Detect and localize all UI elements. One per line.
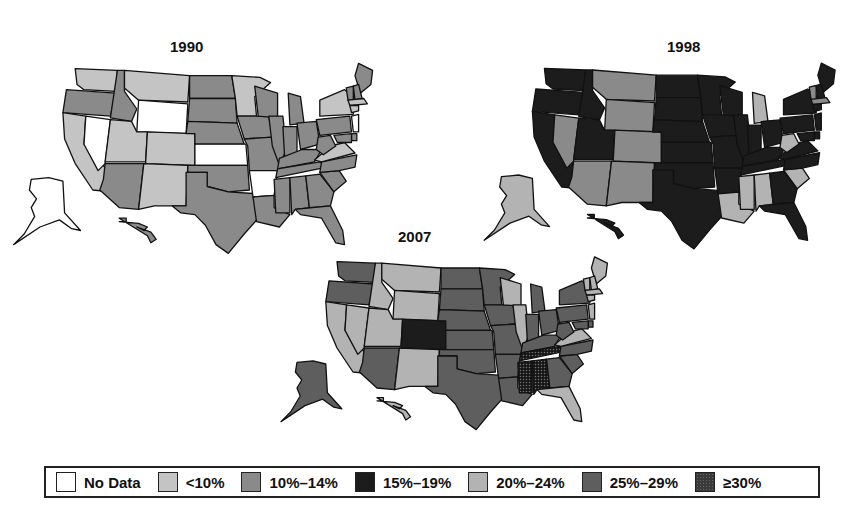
state-ar [715, 168, 743, 194]
state-ne [186, 121, 244, 144]
state-hi [119, 218, 156, 243]
state-ne [438, 310, 491, 331]
legend-swatch [56, 472, 76, 492]
state-wi [500, 278, 521, 307]
state-wi [255, 86, 278, 118]
state-wa [75, 69, 117, 92]
map-1990: 1990 [10, 40, 390, 240]
state-ms [274, 178, 290, 213]
state-az [100, 164, 144, 210]
state-nj [588, 303, 594, 319]
state-co [613, 130, 661, 163]
cropped-caption [160, 0, 720, 5]
legend-label: 25%–29% [610, 474, 678, 491]
legend-item-25-29: 25%–29% [582, 472, 678, 492]
state-vt [346, 86, 353, 100]
legend-label: 20%–24% [496, 474, 564, 491]
state-nm [139, 164, 188, 210]
state-mt [593, 70, 657, 101]
state-ct [813, 104, 822, 111]
state-ak [281, 361, 342, 422]
state-md [572, 321, 588, 329]
state-sd [655, 98, 703, 122]
state-az [569, 161, 612, 206]
state-ma [585, 289, 603, 295]
legend-item-nodata: No Data [56, 472, 141, 492]
choropleth-1990 [10, 40, 390, 240]
state-ar [495, 354, 521, 378]
state-mi [531, 284, 545, 313]
legend-swatch [468, 472, 488, 492]
state-wy [605, 99, 655, 132]
state-md [797, 132, 814, 141]
legend-label: 10%–14% [269, 474, 337, 491]
state-nm [606, 161, 654, 206]
state-de [588, 321, 593, 327]
legend-label: <10% [186, 474, 225, 491]
state-ne [653, 120, 710, 142]
state-hi [377, 398, 411, 420]
legend-swatch [695, 472, 715, 492]
legend-label: 15%–19% [383, 474, 451, 491]
state-or [532, 89, 584, 115]
state-ar [249, 171, 277, 197]
state-wa [337, 262, 375, 283]
state-wy [137, 100, 188, 134]
legend-item-lt10: <10% [158, 472, 225, 492]
map-1998: 1998 [510, 40, 848, 240]
legend-swatch [241, 472, 261, 492]
state-ma [348, 99, 367, 106]
legend-swatch [158, 472, 178, 492]
state-pa [556, 305, 588, 323]
map-2007: 2007 [255, 228, 615, 448]
state-md [334, 134, 352, 143]
legend-item-10-14: 10%–14% [241, 472, 337, 492]
state-az [359, 348, 399, 390]
state-ks [661, 142, 713, 163]
state-vt [583, 278, 589, 291]
state-fl [759, 203, 807, 241]
legend-swatch [355, 472, 375, 492]
state-ct [350, 106, 359, 113]
legend-swatch [582, 472, 602, 492]
choropleth-1998 [510, 40, 848, 240]
legend-label: No Data [84, 474, 141, 491]
state-or [326, 281, 374, 305]
state-nd [190, 76, 236, 99]
state-nd [656, 75, 701, 97]
state-pa [316, 116, 351, 135]
state-ma [811, 98, 830, 105]
state-nd [441, 268, 483, 289]
state-sd [188, 99, 237, 124]
state-nj [814, 113, 821, 130]
state-ia [484, 305, 516, 326]
choropleth-2007 [255, 228, 615, 448]
state-ia [703, 115, 737, 137]
state-ak [14, 178, 81, 245]
state-mt [382, 263, 441, 292]
state-ia [237, 116, 272, 139]
state-ks [446, 330, 494, 349]
state-nj [352, 114, 359, 132]
state-de [814, 132, 819, 139]
legend-item-ge30: ≥30% [695, 472, 761, 492]
state-ms [739, 175, 754, 209]
state-mt [125, 70, 190, 102]
state-pa [780, 115, 814, 134]
state-ks [195, 144, 248, 165]
state-sd [439, 289, 484, 311]
state-nm [395, 348, 440, 390]
state-de [352, 134, 357, 141]
state-co [146, 132, 195, 166]
state-ms [518, 361, 532, 393]
state-wa [544, 68, 585, 90]
state-ct [587, 295, 595, 301]
state-vt [809, 86, 816, 100]
state-or [63, 90, 116, 116]
state-mi [753, 92, 769, 123]
state-wy [393, 290, 439, 320]
state-wi [720, 86, 742, 117]
legend-item-15-19: 15%–19% [355, 472, 451, 492]
state-mi [288, 93, 304, 125]
legend: No Data <10% 10%–14% 15%–19% 20%–24% 25%… [44, 466, 820, 498]
